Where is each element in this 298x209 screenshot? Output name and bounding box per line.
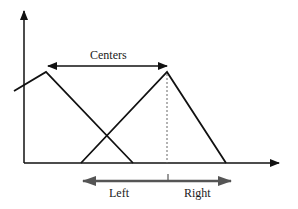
centers-label: Centers xyxy=(90,49,127,61)
left-triangle xyxy=(14,72,133,163)
diagram-graphics xyxy=(0,0,298,209)
right-triangle xyxy=(81,72,226,163)
left-label: Left xyxy=(109,187,129,199)
fuzzy-membership-diagram: Centers Left Right xyxy=(0,0,298,209)
right-label: Right xyxy=(184,187,211,199)
